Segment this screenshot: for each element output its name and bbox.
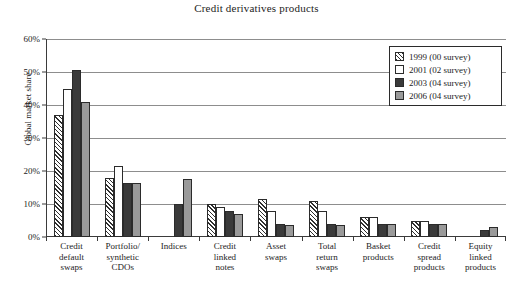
legend-swatch-icon xyxy=(395,91,404,100)
bar xyxy=(72,70,81,237)
x-axis-category-label: Equitylinkedproducts xyxy=(455,241,506,273)
bar xyxy=(183,179,192,237)
legend-item[interactable]: 2001 (02 survey) xyxy=(395,63,497,76)
x-axis-category-label: Totalreturnswaps xyxy=(302,241,353,273)
x-axis-category-label-line: Portfolio/ xyxy=(97,241,148,252)
bar-group-bars xyxy=(250,39,301,237)
y-axis-tick-label: 60% xyxy=(24,34,41,44)
bar xyxy=(369,217,378,237)
x-axis-category-label-line: Basket xyxy=(353,241,404,252)
x-axis-category-label-line: return xyxy=(302,252,353,263)
legend-item-label: 1999 (00 survey) xyxy=(409,52,471,62)
legend-item[interactable]: 1999 (00 survey) xyxy=(395,50,497,63)
x-axis-category-label-line: swaps xyxy=(302,262,353,273)
bar xyxy=(207,204,216,237)
bar xyxy=(429,224,438,237)
x-axis-category-label: Portfolio/syntheticCDOs xyxy=(97,241,148,273)
bar xyxy=(105,178,114,237)
x-axis-category-label-line: synthetic xyxy=(97,252,148,263)
y-axis-tick-label: 30% xyxy=(24,133,41,143)
x-axis-category-label: Creditlinkednotes xyxy=(199,241,250,273)
x-axis-category-label-line: notes xyxy=(199,262,250,273)
bar-group xyxy=(97,39,148,237)
x-axis-category-label-line: CDOs xyxy=(97,262,148,273)
y-axis-tick-label: 20% xyxy=(24,166,41,176)
x-axis-category-label-line: Credit xyxy=(199,241,250,252)
bar xyxy=(216,207,225,237)
bar xyxy=(174,204,183,237)
legend-item-label: 2006 (04 survey) xyxy=(409,91,471,101)
bar xyxy=(387,224,396,237)
x-axis-category-label-line: products xyxy=(353,252,404,263)
x-axis-category-label-line: Total xyxy=(302,241,353,252)
bar xyxy=(234,214,243,237)
credit-derivatives-bar-chart: Credit derivatives products Global marke… xyxy=(0,0,513,287)
bar-group xyxy=(148,39,199,237)
bar-group-bars xyxy=(302,39,353,237)
bar xyxy=(318,211,327,237)
bar xyxy=(411,221,420,238)
bar xyxy=(327,224,336,237)
x-axis-category-label: Creditspreadproducts xyxy=(404,241,455,273)
bar xyxy=(63,89,72,238)
bar xyxy=(309,201,318,237)
x-axis-category-label-line: swaps xyxy=(46,262,97,273)
bar-group xyxy=(250,39,301,237)
bar xyxy=(54,115,63,237)
legend-item-label: 2003 (04 survey) xyxy=(409,78,471,88)
bar xyxy=(258,199,267,237)
chart-title: Credit derivatives products xyxy=(0,2,513,14)
bar xyxy=(225,211,234,237)
bar xyxy=(81,102,90,237)
x-axis-category-label-line: Credit xyxy=(46,241,97,252)
bar xyxy=(420,221,429,238)
bar xyxy=(489,227,498,237)
x-axis-category-label-line: linked xyxy=(199,252,250,263)
x-axis-category-label-line: Asset xyxy=(250,241,301,252)
x-axis-category-label-line: products xyxy=(455,262,506,273)
bar xyxy=(438,224,447,237)
y-axis-tick-label: 40% xyxy=(24,100,41,110)
legend-swatch-icon xyxy=(395,52,404,61)
x-axis-category-label-line: linked xyxy=(455,252,506,263)
x-axis-category-label-line: Equity xyxy=(455,241,506,252)
bar-group-bars xyxy=(148,39,199,237)
bar xyxy=(123,183,132,237)
bar-group xyxy=(46,39,97,237)
bar xyxy=(114,166,123,237)
bar-group xyxy=(199,39,250,237)
legend-item[interactable]: 2003 (04 survey) xyxy=(395,76,497,89)
bar xyxy=(285,225,294,237)
bar xyxy=(267,211,276,237)
x-axis-category-label: Creditdefaultswaps xyxy=(46,241,97,273)
x-axis-category-label-line: spread xyxy=(404,252,455,263)
bar xyxy=(480,230,489,237)
bar xyxy=(276,224,285,237)
bar-group-bars xyxy=(46,39,97,237)
x-axis-category-label-line: swaps xyxy=(250,252,301,263)
x-axis-category-label: Assetswaps xyxy=(250,241,301,262)
bar xyxy=(132,183,141,237)
x-axis-category-label-line: default xyxy=(46,252,97,263)
x-axis-category-label-line: Indices xyxy=(148,241,199,252)
x-axis-category-label-line: products xyxy=(404,262,455,273)
legend-swatch-icon xyxy=(395,65,404,74)
bar xyxy=(360,217,369,237)
legend-item-label: 2001 (02 survey) xyxy=(409,65,471,75)
y-axis-tick-label: 50% xyxy=(24,67,41,77)
legend-item[interactable]: 2006 (04 survey) xyxy=(395,89,497,102)
y-axis-tick-label: 10% xyxy=(24,199,41,209)
bar-group xyxy=(302,39,353,237)
bar-group-bars xyxy=(97,39,148,237)
bar xyxy=(336,225,345,237)
x-axis-category-label-line: Credit xyxy=(404,241,455,252)
bar-group-bars xyxy=(199,39,250,237)
bar xyxy=(378,224,387,237)
y-axis-tick-label: 0% xyxy=(28,232,40,242)
chart-legend: 1999 (00 survey)2001 (02 survey)2003 (04… xyxy=(389,46,502,106)
legend-swatch-icon xyxy=(395,78,404,87)
x-axis-category-label: Indices xyxy=(148,241,199,252)
x-axis-category-label: Basketproducts xyxy=(353,241,404,262)
